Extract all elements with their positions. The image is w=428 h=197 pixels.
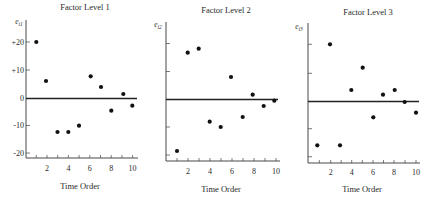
panel-2-xlabel: Time Order xyxy=(201,184,241,194)
data-point xyxy=(403,100,407,104)
data-point xyxy=(109,109,113,113)
svg-text:6: 6 xyxy=(371,168,375,177)
panel-2-x-tick-labels: 2 4 6 8 10 xyxy=(186,167,280,176)
data-point xyxy=(89,74,93,78)
panel-factor-level-3: Factor Level 3 ei3 2 4 6 8 1 xyxy=(295,7,420,194)
data-point xyxy=(208,120,212,124)
data-point xyxy=(381,93,385,97)
data-point xyxy=(34,40,38,44)
data-point xyxy=(229,75,233,79)
svg-text:0: 0 xyxy=(20,94,24,103)
svg-text:10: 10 xyxy=(272,167,280,176)
svg-text:6: 6 xyxy=(230,167,234,176)
data-point xyxy=(219,125,223,129)
data-point xyxy=(186,51,190,55)
panel-1-points xyxy=(34,40,134,134)
data-point xyxy=(272,99,276,103)
svg-text:4: 4 xyxy=(350,168,354,177)
svg-text:-20: -20 xyxy=(13,149,24,158)
data-point xyxy=(361,66,365,70)
data-point xyxy=(66,130,70,134)
data-point xyxy=(241,115,245,119)
panel-2-title: Factor Level 2 xyxy=(201,5,251,15)
svg-text:8: 8 xyxy=(252,167,256,176)
data-point xyxy=(349,88,353,92)
data-point xyxy=(414,111,418,115)
panel-3-x-tick-labels: 2 4 6 8 10 xyxy=(329,168,420,177)
data-point xyxy=(55,130,59,134)
svg-text:+20: +20 xyxy=(11,38,24,47)
data-point xyxy=(315,143,319,147)
svg-text:2: 2 xyxy=(45,164,49,173)
panel-1-xlabel: Time Order xyxy=(60,181,100,191)
data-point xyxy=(197,47,201,51)
svg-text:2: 2 xyxy=(186,167,190,176)
data-point xyxy=(371,115,375,119)
panel-1-ylabel: ei1 xyxy=(15,17,23,27)
svg-text:+10: +10 xyxy=(11,66,24,75)
panel-1-title: Factor Level 1 xyxy=(60,2,110,12)
panel-1-y-ticks xyxy=(26,42,30,153)
panel-3-points xyxy=(315,42,418,147)
svg-text:10: 10 xyxy=(129,164,137,173)
svg-text:4: 4 xyxy=(208,167,212,176)
data-point xyxy=(77,124,81,128)
residual-plots-figure: Factor Level 1 ei1 +20 +10 0 -10 -20 xyxy=(0,0,428,197)
panel-factor-level-2: Factor Level 2 ei2 2 4 6 8 1 xyxy=(154,5,280,194)
data-point xyxy=(328,42,332,46)
data-point xyxy=(130,104,134,108)
data-point xyxy=(175,149,179,153)
data-point xyxy=(251,93,255,97)
data-point xyxy=(338,143,342,147)
panel-factor-level-1: Factor Level 1 ei1 +20 +10 0 -10 -20 xyxy=(11,2,138,191)
panel-3-xlabel: Time Order xyxy=(342,184,382,194)
svg-text:8: 8 xyxy=(109,164,113,173)
data-point xyxy=(393,88,397,92)
data-point xyxy=(99,85,103,89)
svg-text:6: 6 xyxy=(88,164,92,173)
svg-text:2: 2 xyxy=(329,168,333,177)
data-point xyxy=(262,104,266,108)
svg-text:8: 8 xyxy=(392,168,396,177)
panel-1-x-tick-labels: 2 4 6 8 10 xyxy=(45,164,137,173)
svg-text:4: 4 xyxy=(66,164,70,173)
panel-3-title: Factor Level 3 xyxy=(343,7,393,17)
panel-3-ylabel: ei3 xyxy=(295,22,303,32)
panel-3-y-ticks xyxy=(308,44,312,156)
panel-1-y-tick-labels: +20 +10 0 -10 -20 xyxy=(11,38,24,158)
panel-2-ylabel: ei2 xyxy=(154,20,162,30)
svg-text:-10: -10 xyxy=(13,121,24,130)
data-point xyxy=(44,79,48,83)
data-point xyxy=(121,92,125,96)
svg-text:10: 10 xyxy=(412,168,420,177)
